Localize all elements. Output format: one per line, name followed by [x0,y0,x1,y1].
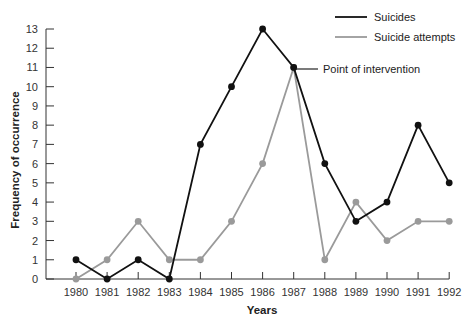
data-point [135,256,142,263]
data-point [104,256,111,263]
data-point [321,160,328,167]
x-tick-label: 1982 [126,286,150,298]
y-axis: 012345678910111213 [26,23,54,285]
x-axis-label: Years [247,304,278,316]
y-tick-label: 1 [32,254,38,266]
y-tick-label: 13 [26,23,38,35]
data-point [446,218,453,225]
data-point [228,218,235,225]
y-tick-label: 7 [32,138,38,150]
data-point [228,83,235,90]
data-point [415,122,422,129]
y-tick-label: 10 [26,81,38,93]
data-point [384,237,391,244]
x-tick-label: 1992 [437,286,461,298]
y-tick-label: 11 [27,61,38,73]
data-point [73,256,80,263]
data-point [104,276,111,283]
data-point [259,26,266,33]
data-point [353,199,360,206]
data-point [415,218,422,225]
data-point [197,256,204,263]
x-tick-label: 1980 [64,286,88,298]
y-tick-label: 8 [32,119,38,131]
y-tick-label: 6 [32,158,38,170]
y-tick-label: 12 [26,42,38,54]
x-tick-label: 1991 [406,286,430,298]
legend: Suicides Suicide attempts [335,11,456,43]
y-tick-label: 3 [32,215,38,227]
y-tick-label: 5 [32,177,38,189]
y-tick-label: 4 [32,196,38,208]
x-tick-label: 1990 [375,286,399,298]
x-tick-label: 1981 [95,286,119,298]
data-point [384,199,391,206]
x-tick-label: 1984 [188,286,212,298]
y-tick-label: 9 [32,100,38,112]
x-tick-label: 1983 [157,286,181,298]
annotation-label: Point of intervention [323,63,420,75]
x-tick-label: 1987 [281,286,305,298]
data-point [446,179,453,186]
data-point [353,218,360,225]
line-chart: 012345678910111213 198019811982198319841… [0,0,474,324]
y-tick-label: 2 [32,235,38,247]
data-point [321,256,328,263]
data-point [73,276,80,283]
x-tick-label: 1985 [219,286,243,298]
intervention-annotation: Point of intervention [296,63,420,75]
legend-label-suicides: Suicides [374,11,416,23]
y-axis-label: Frequency of occurrence [9,91,21,228]
series-suicide-attempts [73,64,453,282]
y-tick-label: 0 [32,273,38,285]
data-point [166,256,173,263]
data-point [135,218,142,225]
data-point [197,141,204,148]
data-point [166,276,173,283]
x-tick-label: 1988 [313,286,337,298]
x-tick-label: 1989 [344,286,368,298]
legend-label-attempts: Suicide attempts [374,31,456,43]
x-tick-label: 1986 [250,286,274,298]
data-point [259,160,266,167]
data-point [290,64,297,71]
